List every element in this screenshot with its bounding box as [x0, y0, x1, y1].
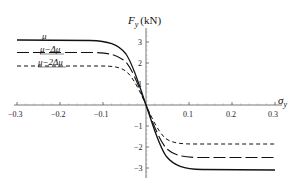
- y-tick-label: −3: [134, 164, 143, 173]
- legend-label-mu-minus-dmu: μ−Δμ: [39, 44, 61, 54]
- y-tick-label: −2: [134, 143, 143, 152]
- y-axis: [146, 28, 149, 178]
- legend-label-mu-minus-2dmu: μ−2Δμ: [37, 57, 63, 67]
- x-tick-label: −0.2: [51, 110, 66, 119]
- x-tick-label: 0.2: [226, 110, 236, 119]
- y-axis-title: Fy(kN): [127, 14, 161, 29]
- y-tick-label: 2: [138, 59, 142, 68]
- x-axis-title: σy: [278, 94, 287, 109]
- x-tick-label: −0.3: [8, 110, 23, 119]
- y-tick-label: −1: [134, 122, 143, 131]
- x-tick-label: 0.1: [183, 110, 193, 119]
- x-axis: [14, 102, 282, 105]
- x-tick-label: −0.1: [94, 110, 109, 119]
- x-tick-label: 0.3: [268, 110, 278, 119]
- force-chart: −0.3 −0.2 −0.1 0.1 0.2 0.3 3 2 1 −1 −2 −…: [0, 0, 301, 190]
- y-tick-label: 3: [138, 38, 142, 47]
- legend-label-mu: μ: [41, 31, 47, 41]
